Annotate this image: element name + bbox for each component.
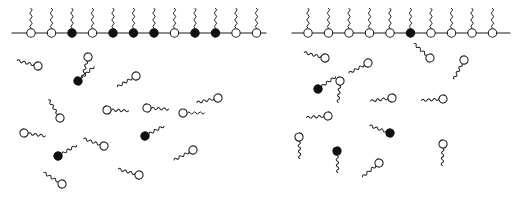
free-surfactant [368,122,395,138]
bulk-surfactants [16,52,223,190]
surfactant-tail [306,115,323,118]
free-surfactant [117,165,144,180]
surfactant-tail [453,63,463,79]
surfactant-tail [173,151,189,161]
monolayer-tail [91,8,93,28]
surfactant-head-open [424,52,436,64]
surfactant-tail [148,125,164,135]
free-surfactant [411,41,435,64]
free-surfactant [303,48,330,63]
monolayer-head-open [47,29,55,37]
monolayer-tail [327,8,329,28]
free-surfactant [360,157,385,180]
free-surfactant [295,133,304,159]
free-surfactant [72,64,96,87]
monolayer-tail [112,8,114,28]
surfactant-head-open [56,178,67,189]
free-surfactant [347,57,373,76]
surfactant-tail [298,141,301,158]
monolayer-head-filled [191,29,199,37]
surfactant-head-open [19,128,28,137]
surfactant-head-open [387,93,396,102]
monolayer-tail [430,8,432,28]
monolayer-head-filled [109,29,117,37]
surfactant-tail [188,112,205,114]
monolayer-head-filled [211,29,219,37]
surfactant-head-open [320,53,330,63]
surfactant-head-open [187,144,198,155]
free-surfactant [103,106,129,115]
monolayer-head-filled [129,29,137,37]
surfactant-tail [48,99,59,115]
surfactant-head-open [134,170,144,180]
surfactant-tail [371,97,388,102]
free-surfactant [370,93,396,105]
free-surfactant [139,122,165,141]
free-surfactant [52,142,78,162]
surfactant-tail [111,109,128,112]
monolayer-tail [307,8,309,28]
monolayer-head-open [304,29,312,37]
free-surfactant [196,93,223,106]
monolayer-tail [132,8,134,28]
surfactant-tail [369,125,386,133]
monolayer-tail [409,8,411,28]
monolayer-tail [348,8,350,28]
surfactant-head-filled [139,130,150,141]
monolayer-head-open [27,29,35,37]
bulk-surfactants [295,41,470,180]
surfactant-tail [421,98,438,101]
monolayer-head-open [170,29,178,37]
surfactant-head-open [33,61,43,71]
surfactant-head-open [83,52,93,62]
monolayer-tail [50,8,52,28]
free-surfactant [312,73,338,94]
surfactant-tail [197,98,214,104]
surfactant-tail [17,59,34,66]
monolayer-tail [194,8,196,28]
monolayer-tail [30,8,32,28]
free-surfactant [334,77,344,103]
surfactant-head-open [324,112,333,121]
monolayer-head-open [447,29,455,37]
monolayer-head-open [88,29,96,37]
monolayer-head-filled [406,29,414,37]
surfactant-tail [83,138,100,146]
surfactant-head-open [295,133,303,141]
surfactant-head-open [362,57,373,68]
monolayer-tail [491,8,493,28]
monolayer-tail [471,8,473,28]
free-surfactant [450,54,469,80]
surfactant-tail [43,172,59,183]
free-surfactant [82,135,109,151]
surfactant-tail [348,64,364,74]
pure-monolayer-panel [292,8,510,180]
monolayer-head-open [386,29,394,37]
monolayer-tail [173,8,175,28]
monolayer-head-open [365,29,373,37]
monolayer-tail [389,8,391,28]
monolayer-tail [235,8,237,28]
free-surfactant [438,140,447,166]
free-surfactant [16,56,43,71]
free-surfactant [421,95,447,105]
monolayer-tail [214,8,216,28]
surfactant-tail [151,107,168,110]
surfactant-head-open [103,106,111,114]
surfactant-tail [337,85,341,102]
surfactant-head-open [213,93,223,103]
surfactant-head-open [373,157,385,169]
monolayer-head-open [427,29,435,37]
surfactant-head-open [439,95,448,104]
surfactant-tail [413,43,427,56]
monolayer-tail [71,8,73,28]
free-surfactant [143,104,169,114]
surfactant-head-open [143,104,152,113]
surfactant-head-open [336,77,345,86]
monolayer-head-filled [150,29,158,37]
surfactant-tail [304,51,321,58]
surfactant-head-open [458,54,469,65]
surfactant-tail [321,76,336,88]
free-surfactant [115,70,141,90]
monolayer-head-open [345,29,353,37]
